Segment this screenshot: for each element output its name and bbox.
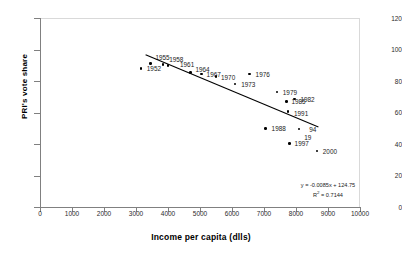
data-point-label: 1997 <box>295 140 309 147</box>
y-tick-label: 100 <box>372 46 402 53</box>
data-point-label: 1961 <box>180 61 194 68</box>
r-squared-value: = 0.7144 <box>320 192 343 198</box>
regression-equation: y = -0.0085x + 124.75 <box>282 182 374 189</box>
data-point-label: 1976 <box>256 71 270 78</box>
data-point-label: 1970 <box>221 74 235 81</box>
data-point <box>264 127 267 130</box>
y-tick-label: 80 <box>372 78 402 85</box>
data-point-label: 1967 <box>207 71 221 78</box>
y-tick-mark <box>34 176 40 177</box>
y-axis-line <box>40 18 41 207</box>
data-point <box>140 67 143 70</box>
data-point <box>200 73 203 76</box>
y-tick-mark <box>34 18 40 19</box>
y-tick-label: 40 <box>372 141 402 148</box>
data-point-label: 1952 <box>147 65 161 72</box>
r-squared: R2 = 0.7144 <box>282 189 374 199</box>
data-point-label: 1955 <box>155 54 169 61</box>
data-point <box>149 62 152 65</box>
data-point <box>167 64 170 67</box>
data-point-label: 2000 <box>323 148 337 155</box>
data-point-label: 1985 <box>291 98 305 105</box>
data-point-label: 1973 <box>241 81 255 88</box>
data-point <box>285 100 288 103</box>
data-point <box>215 75 218 78</box>
data-point <box>288 142 291 145</box>
y-tick-mark <box>34 113 40 114</box>
plot-area <box>40 18 360 207</box>
regression-annotation: y = -0.0085x + 124.75 R2 = 0.7144 <box>282 182 374 200</box>
x-tick-label: 10000 <box>340 210 380 217</box>
y-tick-mark <box>34 144 40 145</box>
data-point-label: 1979 <box>283 89 297 96</box>
y-tick-mark <box>34 50 40 51</box>
data-point-label: 94 <box>309 126 316 133</box>
data-point <box>189 71 192 74</box>
data-point-label: 1988 <box>272 125 286 132</box>
y-tick-mark <box>34 81 40 82</box>
data-point-label: 1991 <box>294 110 308 117</box>
data-point <box>248 73 251 76</box>
x-axis-title: Income per capita (dlls) <box>0 232 402 242</box>
scatter-chart: 020406080100120 010002000300040005000600… <box>0 0 402 258</box>
y-tick-label: 60 <box>372 109 402 116</box>
y-axis-title: PRI's vote share <box>20 12 29 162</box>
y-tick-label: 120 <box>372 15 402 22</box>
y-tick-label: 20 <box>372 172 402 179</box>
